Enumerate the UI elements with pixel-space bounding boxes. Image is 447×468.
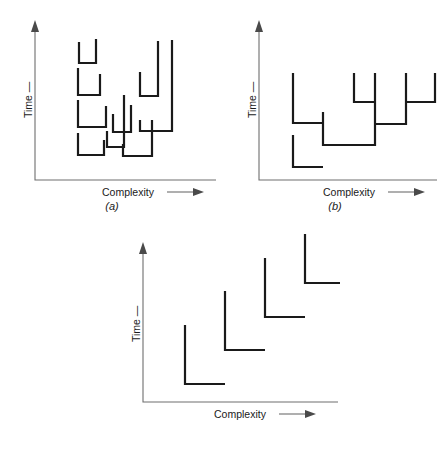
step-path <box>123 120 152 156</box>
step-path <box>323 112 354 145</box>
step-path <box>265 258 305 317</box>
panel-b-caption: (b) <box>223 200 447 212</box>
right-arrow-icon <box>305 410 316 418</box>
step-path <box>79 39 96 63</box>
axis-lines <box>259 30 437 180</box>
panel-b-series <box>293 73 435 167</box>
panel-a-xlabel-group: Complexity <box>102 186 204 198</box>
y-axis-label-wrapper: Time — <box>130 307 142 342</box>
axis-lines <box>143 252 338 402</box>
panel-a-series <box>78 39 172 156</box>
step-path <box>293 135 323 167</box>
panel-b-xlabel-group: Complexity <box>323 186 425 198</box>
panel-c-plot: Complexity <box>110 234 340 468</box>
step-path <box>185 325 225 384</box>
step-path <box>305 234 340 283</box>
step-path <box>140 40 172 131</box>
panel-c-series <box>185 234 340 384</box>
y-axis-label-wrapper: Time — <box>22 83 34 118</box>
step-path <box>107 95 124 147</box>
figure-container: Complexity Time — (a) <box>0 0 447 468</box>
panel-b: Complexity Time — (b) <box>223 0 447 234</box>
panel-c-xlabel-group: Complexity <box>214 408 316 420</box>
step-path <box>225 291 265 350</box>
y-axis-label: Time <box>246 95 258 118</box>
step-path <box>354 73 375 102</box>
step-path <box>293 73 323 123</box>
step-path <box>140 41 158 96</box>
panel-c-axes <box>139 242 338 402</box>
step-path <box>406 73 435 102</box>
y-axis-arrow-dash: — <box>246 83 258 93</box>
y-axis-arrow-dash: — <box>22 83 34 93</box>
y-axis-label: Time <box>22 95 34 118</box>
x-axis-label: Complexity <box>323 186 376 198</box>
step-path <box>113 105 131 132</box>
right-arrow-icon <box>414 188 425 196</box>
panel-a-caption: (a) <box>0 200 224 212</box>
y-axis-arrow-dash: — <box>130 307 142 317</box>
step-path <box>354 73 375 145</box>
step-path <box>78 68 100 95</box>
up-arrow-icon <box>255 20 263 32</box>
y-axis-label: Time <box>130 319 142 342</box>
panel-c: Complexity Time — (c) <box>110 234 340 468</box>
step-path <box>375 73 406 124</box>
step-path <box>78 133 104 155</box>
up-arrow-icon <box>31 20 39 32</box>
panel-b-axes <box>255 20 437 180</box>
x-axis-label: Complexity <box>214 408 267 420</box>
y-axis-label-wrapper: Time — <box>246 83 258 118</box>
step-path <box>78 100 106 127</box>
panel-a: Complexity Time — (a) <box>0 0 224 234</box>
x-axis-label: Complexity <box>102 186 155 198</box>
axis-lines <box>35 30 216 180</box>
right-arrow-icon <box>193 188 204 196</box>
up-arrow-icon <box>139 242 147 254</box>
